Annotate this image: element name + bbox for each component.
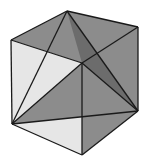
cube-diagram — [0, 0, 147, 165]
cube-svg — [0, 0, 147, 165]
